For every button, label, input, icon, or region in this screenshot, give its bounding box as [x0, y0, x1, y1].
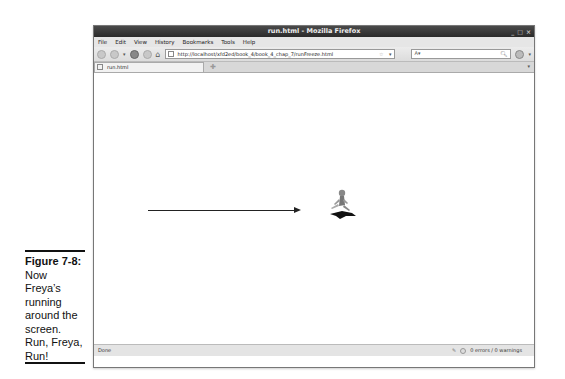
tab-list-icon[interactable]: ▾: [527, 63, 530, 69]
status-right-area: ✎ 0 errors / 0 warnings: [452, 345, 522, 356]
home-button[interactable]: ⌂: [156, 50, 161, 59]
search-engine-icon[interactable]: A▾: [414, 50, 420, 56]
tab-favicon-icon: [97, 64, 103, 70]
menu-bookmarks[interactable]: Bookmarks: [183, 37, 214, 47]
maximize-button[interactable]: □: [517, 26, 523, 37]
addon-icon[interactable]: [515, 50, 524, 59]
caption-bottom-rule: [25, 362, 85, 364]
figure-label: Figure 7-8:: [25, 255, 81, 267]
tab-bar: run.html ✚ ▾: [94, 62, 534, 73]
title-bar: run.html - Mozilla Firefox _ □ ×: [94, 26, 534, 37]
menu-edit[interactable]: Edit: [115, 37, 126, 47]
window-title: run.html - Mozilla Firefox: [268, 27, 361, 35]
browser-window: run.html - Mozilla Firefox _ □ × File Ed…: [93, 25, 535, 368]
bookmark-star-icon[interactable]: ☆: [379, 50, 383, 58]
status-text: Done: [98, 347, 111, 353]
menu-tools[interactable]: Tools: [221, 37, 235, 47]
error-console-icon[interactable]: [460, 348, 466, 354]
window-controls: _ □ ×: [511, 26, 531, 37]
right-arrow-shaft: [148, 210, 298, 211]
menu-help[interactable]: Help: [243, 37, 256, 47]
url-bar[interactable]: http://localhost/xfd2ed/book_4/book_4_ch…: [165, 49, 395, 59]
new-tab-button[interactable]: ✚: [210, 62, 216, 72]
search-bar[interactable]: A▾ 🔍︎: [411, 49, 511, 59]
caption-top-rule: [25, 250, 85, 252]
figure-caption: Figure 7-8: Now Freya’s running around t…: [25, 255, 85, 363]
figure-caption-text: Now Freya’s running around the screen. R…: [25, 269, 82, 362]
page-favicon-icon: [168, 51, 174, 57]
url-text: http://localhost/xfd2ed/book_4/book_4_ch…: [178, 51, 334, 57]
toolbar-overflow-icon[interactable]: ▾: [528, 51, 531, 57]
search-icon[interactable]: 🔍︎: [500, 50, 508, 57]
close-button[interactable]: ×: [526, 26, 531, 37]
navigation-toolbar: ▾ ⌂ http://localhost/xfd2ed/book_4/book_…: [94, 47, 534, 62]
menu-view[interactable]: View: [134, 37, 147, 47]
tools-icon[interactable]: ✎: [452, 345, 456, 356]
stop-button[interactable]: [143, 50, 152, 59]
status-bar: Done ✎ 0 errors / 0 warnings: [94, 344, 534, 356]
menu-file[interactable]: File: [98, 37, 107, 47]
back-button[interactable]: [97, 50, 106, 59]
url-dropdown-icon[interactable]: ▾: [389, 50, 392, 58]
minimize-button[interactable]: _: [511, 26, 514, 37]
page-content: Done ✎ 0 errors / 0 warnings: [94, 73, 534, 356]
tab-label: run.html: [107, 64, 128, 70]
tab-run-html[interactable]: run.html: [94, 62, 204, 72]
running-character-sprite: [322, 185, 362, 225]
menu-bar: File Edit View History Bookmarks Tools H…: [94, 37, 534, 47]
menu-history[interactable]: History: [155, 37, 175, 47]
forward-button[interactable]: [110, 50, 119, 59]
reload-button[interactable]: [130, 50, 139, 59]
right-arrow-icon: [294, 207, 301, 213]
error-count-text[interactable]: 0 errors / 0 warnings: [470, 345, 522, 356]
history-dropdown-icon[interactable]: ▾: [123, 51, 126, 57]
